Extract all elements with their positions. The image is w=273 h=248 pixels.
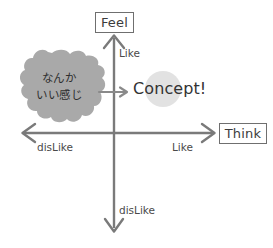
feel-axis-label-box: Feel (95, 12, 134, 33)
concept-matrix-diagram: Feel Think Like disLike disLike Like なんか… (0, 0, 273, 248)
vertical-axis-negative-tick: disLike (119, 205, 155, 216)
vertical-axis-positive-tick: Like (119, 48, 140, 59)
concept-label: Concept! (133, 81, 206, 97)
think-axis-label-box: Think (219, 123, 267, 144)
feel-axis-label-text: Feel (101, 16, 128, 29)
feeling-blob-label: なんか いい感じ (23, 70, 95, 103)
horizontal-axis-negative-tick: disLike (37, 142, 73, 153)
think-axis-label-text: Think (225, 127, 262, 140)
horizontal-axis-positive-tick: Like (172, 142, 193, 153)
feeling-blob-label-line1: なんか (23, 70, 95, 87)
feeling-blob-label-line2: いい感じ (23, 87, 95, 104)
